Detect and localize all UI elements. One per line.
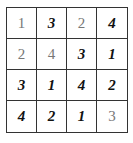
sudoku-grid: 1 3 2 4 2 4 3 1 3 1 4 2 4 2 1 3: [6, 7, 128, 133]
grid-cell-r4c2: 2: [37, 101, 67, 132]
grid-cell-r2c2: 4: [37, 39, 67, 70]
grid-cell-r4c1: 4: [7, 101, 37, 132]
grid-cell-r1c4: 4: [97, 8, 127, 39]
grid-cell-r3c3: 4: [67, 70, 97, 101]
grid-cell-r2c4: 1: [97, 39, 127, 70]
grid-cell-r1c2: 3: [37, 8, 67, 39]
grid-cell-r3c2: 1: [37, 70, 67, 101]
grid-cell-r4c3: 1: [67, 101, 97, 132]
grid-cell-r2c1: 2: [7, 39, 37, 70]
grid-cell-r3c4: 2: [97, 70, 127, 101]
grid-cell-r3c1: 3: [7, 70, 37, 101]
grid-cell-r4c4: 3: [97, 101, 127, 132]
grid-cell-r1c1: 1: [7, 8, 37, 39]
grid-cell-r1c3: 2: [67, 8, 97, 39]
grid-cell-r2c3: 3: [67, 39, 97, 70]
